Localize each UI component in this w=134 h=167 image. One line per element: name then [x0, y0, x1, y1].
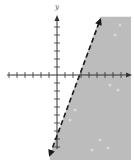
shade-texture: [99, 139, 102, 142]
shaded-area: [50, 17, 131, 160]
inequality-graph: [0, 0, 134, 167]
shade-texture: [74, 109, 77, 112]
shade-texture: [114, 34, 117, 37]
shade-texture: [119, 24, 122, 27]
y-axis-arrow-icon: [55, 15, 60, 21]
shade-texture: [91, 149, 94, 152]
shade-texture: [107, 147, 110, 150]
shade-texture: [109, 84, 112, 87]
shaded-region: [50, 17, 131, 160]
shade-texture: [117, 89, 120, 92]
shade-texture: [69, 119, 72, 122]
y-axis-label: y: [55, 3, 59, 11]
